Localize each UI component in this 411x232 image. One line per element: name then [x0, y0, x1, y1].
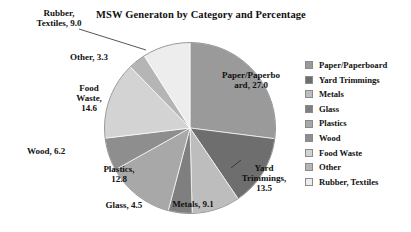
legend-item[interactable]: Paper/Paperboard [305, 58, 409, 73]
legend-item[interactable]: Other [305, 160, 409, 175]
data-label-wood: Wood, 6.2 [27, 146, 99, 156]
legend-item[interactable]: Glass [305, 102, 409, 117]
legend-swatch-icon [305, 61, 313, 69]
legend-item-label: Wood [319, 134, 341, 143]
legend-swatch-icon [305, 76, 313, 84]
data-label-other: Other, 3.3 [52, 52, 126, 62]
data-label-plastics: Plastics, 12.8 [91, 164, 147, 184]
chart-legend: Paper/PaperboardYard TrimmingsMetalsGlas… [305, 58, 409, 189]
legend-item[interactable]: Rubber, Textiles [305, 175, 409, 190]
legend-swatch-icon [305, 105, 313, 113]
legend-item-label: Yard Trimmings [319, 76, 380, 85]
data-label-yard-trimmings: Yard Trimmings, 13.5 [233, 163, 295, 193]
data-label-glass: Glass, 4.5 [94, 200, 154, 210]
legend-item-label: Metals [319, 90, 344, 99]
legend-swatch-icon [305, 178, 313, 186]
legend-item-label: Paper/Paperboard [319, 61, 387, 70]
legend-item-label: Other [319, 163, 341, 172]
chart-title: MSW Generaton by Category and Percentage [86, 9, 316, 20]
legend-item-label: Glass [319, 105, 339, 114]
legend-item-label: Food Waste [319, 149, 362, 158]
legend-item[interactable]: Metals [305, 87, 409, 102]
legend-swatch-icon [305, 120, 313, 128]
data-label-food-waste: Food Waste, 14.6 [62, 83, 116, 113]
legend-item[interactable]: Plastics [305, 116, 409, 131]
data-label-rubber-textiles: Rubber, Textiles, 9.0 [16, 8, 102, 28]
data-label-paper-paperboard: Paper/Paperbo ard, 27.0 [212, 70, 290, 90]
legend-item-label: Plastics [319, 119, 347, 128]
legend-swatch-icon [305, 149, 313, 157]
legend-swatch-icon [305, 134, 313, 142]
legend-swatch-icon [305, 90, 313, 98]
data-label-metals: Metals, 9.1 [160, 199, 226, 209]
legend-item[interactable]: Yard Trimmings [305, 73, 409, 88]
legend-item[interactable]: Food Waste [305, 146, 409, 161]
legend-item[interactable]: Wood [305, 131, 409, 146]
legend-swatch-icon [305, 163, 313, 171]
pie-slice [190, 43, 276, 139]
legend-item-label: Rubber, Textiles [319, 178, 378, 187]
pie-chart-figure: MSW Generaton by Category and Percentage… [0, 0, 411, 232]
